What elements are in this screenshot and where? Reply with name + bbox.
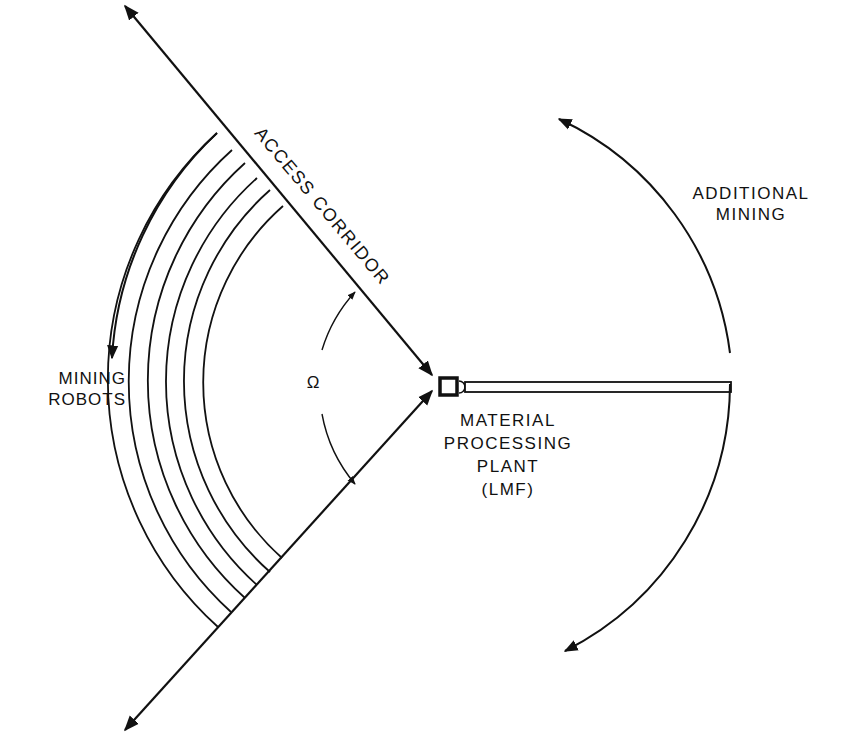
mining-arc-2: [129, 150, 232, 612]
mining-robots-line-1: MINING: [28, 368, 126, 389]
mining-robots-label: MINING ROBOTS: [28, 368, 126, 410]
plant-label-line-1: MATERIAL: [438, 409, 578, 432]
conveyor-strip: [465, 382, 731, 392]
additional-mining-arc-lower: [565, 384, 730, 651]
diagram-canvas: [0, 0, 850, 738]
mining-arc-5: [184, 190, 270, 572]
additional-mining-line-2: MINING: [686, 204, 816, 225]
lower-boundary-line: [125, 391, 432, 730]
mining-arc-3: [148, 163, 245, 598]
plant-label-line-2: PROCESSING: [438, 432, 578, 455]
angle-arrow-upper: [322, 292, 355, 350]
additional-mining-line-1: ADDITIONAL: [686, 183, 816, 204]
angle-arrow-lower: [322, 414, 355, 484]
access-corridor-line: [125, 6, 432, 375]
plant-label-line-4: (LMF): [438, 478, 578, 501]
mining-arc-4: [166, 178, 257, 585]
mining-robots-line-2: ROBOTS: [28, 389, 126, 410]
angle-omega-label: Ω: [300, 372, 326, 393]
plant-label-line-3: PLANT: [438, 455, 578, 478]
additional-mining-arc-upper: [559, 119, 730, 353]
additional-mining-label: ADDITIONAL MINING: [686, 183, 816, 225]
plant-box: [440, 378, 457, 395]
plant-label: MATERIAL PROCESSING PLANT (LMF): [438, 409, 578, 501]
mining-arcs: [108, 133, 283, 627]
